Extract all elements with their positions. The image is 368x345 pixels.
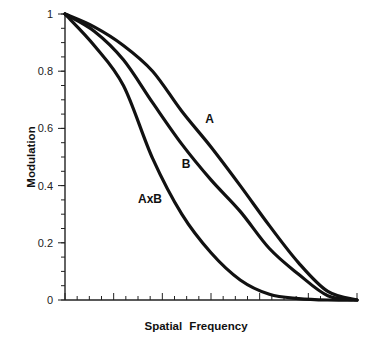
curve-b [65,14,357,300]
y-axis-title: Modulation [25,126,37,187]
x-axis-title: Spatial Frequency [144,320,248,332]
curve-label-axb: AxB [138,192,162,206]
curve-label-a: A [205,112,214,126]
y-tick-label: 0.8 [38,65,53,77]
curve-labels: ABAxB [138,112,214,206]
curve-a [65,14,357,300]
curve-label-b: B [182,157,191,171]
y-tick-label: 0.6 [38,122,53,134]
y-tick-label: 0 [47,294,53,306]
mtf-chart: 00.20.40.60.81 ABAxB Modulation Spatial … [0,0,368,345]
y-tick-label: 1 [47,8,53,20]
curve-axb [65,14,357,300]
y-tick-label: 0.4 [38,180,53,192]
y-axis-ticks: 00.20.40.60.81 [38,8,65,306]
y-tick-label: 0.2 [38,237,53,249]
curves [65,14,357,300]
